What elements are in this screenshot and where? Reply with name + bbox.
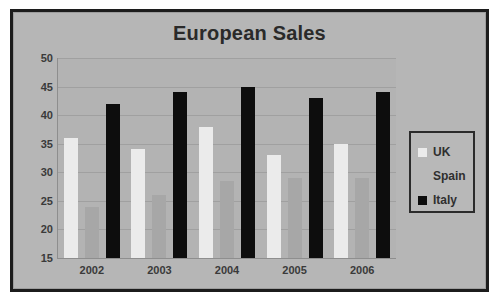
bar-group-2005 [261,58,329,258]
bar-italy-2002[interactable] [106,104,120,258]
x-tick-label-2006: 2006 [350,264,374,276]
bar-spain-2002[interactable] [85,207,99,258]
x-axis-labels: 20022003200420052006 [58,264,396,286]
bar-italy-2003[interactable] [173,92,187,258]
legend-item-italy[interactable]: Italy [418,188,473,212]
legend-item-spain[interactable]: Spain [418,164,473,188]
legend-label: Spain [433,169,466,183]
bar-uk-2005[interactable] [267,155,281,258]
y-tick-label: 40 [11,109,53,121]
y-tick-label: 30 [11,166,53,178]
y-tick-label: 50 [11,52,53,64]
bar-italy-2004[interactable] [241,87,255,258]
y-axis-labels: 5045403530252015 [13,58,53,258]
y-tick-label: 25 [11,195,53,207]
legend-swatch-icon-spain [418,172,427,181]
x-tick-label-2003: 2003 [147,264,171,276]
x-tick-label-2005: 2005 [282,264,306,276]
bar-spain-2005[interactable] [288,178,302,258]
x-tick-label-2004: 2004 [215,264,239,276]
bar-italy-2006[interactable] [376,92,390,258]
chart-plate: European Sales 5045403530252015 20022003… [13,12,486,289]
chart-frame: European Sales 5045403530252015 20022003… [10,9,489,292]
y-tick-label: 35 [11,138,53,150]
legend-label: Italy [433,193,457,207]
x-tick-label-2002: 2002 [80,264,104,276]
legend-item-uk[interactable]: UK [418,140,473,164]
y-tick-label: 15 [11,252,53,264]
bar-italy-2005[interactable] [309,98,323,258]
bar-group-2006 [328,58,396,258]
plot-area [58,58,396,258]
bar-spain-2003[interactable] [152,195,166,258]
chart-legend[interactable]: UKSpainItaly [409,131,475,213]
bar-uk-2004[interactable] [199,127,213,258]
bar-uk-2003[interactable] [131,149,145,258]
bar-group-2004 [193,58,261,258]
bar-spain-2006[interactable] [355,178,369,258]
y-tick-label: 45 [11,81,53,93]
legend-swatch-icon-italy [418,196,427,205]
x-axis-line [57,258,396,259]
chart-title: European Sales [13,22,486,45]
legend-label: UK [433,145,450,159]
legend-swatch-icon-uk [418,148,427,157]
bar-group-2002 [58,58,126,258]
y-tick-label: 20 [11,223,53,235]
bar-group-2003 [126,58,194,258]
bar-uk-2006[interactable] [334,144,348,258]
bar-spain-2004[interactable] [220,181,234,258]
bar-uk-2002[interactable] [64,138,78,258]
